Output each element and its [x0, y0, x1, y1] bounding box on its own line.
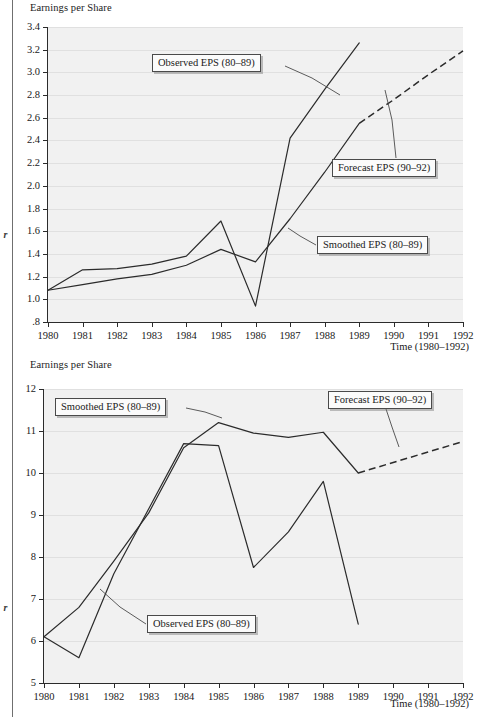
y-tick-mark: [39, 515, 44, 516]
x-tick-label: 1987: [271, 692, 305, 703]
y-tick-label: 1.8: [4, 204, 40, 215]
x-axis-line: [43, 683, 463, 684]
x-axis-line: [47, 322, 463, 323]
x-tick-mark: [152, 322, 153, 327]
x-tick-label: 1982: [100, 331, 134, 342]
y-tick-mark: [43, 209, 48, 210]
x-tick-mark: [428, 683, 429, 688]
x-tick-label: 1988: [306, 692, 340, 703]
x-tick-label: 1992: [446, 331, 478, 342]
y-tick-mark: [39, 557, 44, 558]
x-tick-label: 1991: [411, 331, 445, 342]
x-tick-mark: [184, 683, 185, 688]
x-tick-mark: [358, 683, 359, 688]
x-tick-label: 1988: [308, 331, 342, 342]
figure-top: Earnings per Share Observed EPS (80–89) …: [0, 0, 473, 360]
callout-observed-top[interactable]: Observed EPS (80–89): [152, 54, 261, 72]
callout-smoothed-bottom[interactable]: Smoothed EPS (80–89): [55, 398, 166, 416]
y-axis-line: [43, 389, 44, 683]
callout-forecast-bottom[interactable]: Forecast EPS (90–92): [328, 391, 432, 409]
y-tick-mark: [43, 140, 48, 141]
x-tick-label: 1984: [169, 331, 203, 342]
x-tick-mark: [428, 322, 429, 327]
x-tick-mark: [463, 683, 464, 688]
x-tick-label: 1983: [135, 331, 169, 342]
x-tick-mark: [83, 322, 84, 327]
callout-smoothed-top[interactable]: Smoothed EPS (80–89): [317, 236, 428, 254]
y-tick-label: 11: [0, 426, 36, 437]
x-tick-mark: [288, 683, 289, 688]
series-line-forecast: [359, 51, 463, 124]
y-tick-mark: [43, 72, 48, 73]
x-tick-label: 1984: [167, 692, 201, 703]
series-line-forecast: [358, 442, 463, 474]
y-tick-mark: [43, 118, 48, 119]
y-tick-mark: [43, 231, 48, 232]
y-tick-mark: [43, 163, 48, 164]
x-tick-mark: [79, 683, 80, 688]
y-tick-mark: [39, 641, 44, 642]
x-tick-label: 1983: [132, 692, 166, 703]
x-tick-mark: [48, 322, 49, 327]
y-tick-label: 12: [0, 384, 36, 395]
x-tick-mark: [186, 322, 187, 327]
x-tick-mark: [117, 322, 118, 327]
y-tick-label: 1.4: [4, 249, 40, 260]
y-tick-label: 3.4: [4, 22, 40, 33]
callout-observed-bottom[interactable]: Observed EPS (80–89): [147, 615, 256, 633]
x-tick-mark: [359, 322, 360, 327]
figure-bottom: Earnings per Share Smoothed EPS (80–89) …: [0, 357, 473, 717]
y-tick-label: 5: [0, 678, 36, 689]
x-tick-mark: [149, 683, 150, 688]
x-tick-label: 1991: [411, 692, 445, 703]
y-tick-label: 2.6: [4, 113, 40, 124]
y-tick-label: 2.4: [4, 135, 40, 146]
x-tick-mark: [463, 322, 464, 327]
callout-forecast-top[interactable]: Forecast EPS (90–92): [332, 159, 436, 177]
y-tick-mark: [43, 27, 48, 28]
y-tick-mark: [39, 431, 44, 432]
y-tick-mark: [39, 599, 44, 600]
y-tick-label: 6: [0, 636, 36, 647]
x-axis-title-top: Time (1980–1992): [390, 341, 469, 352]
y-tick-mark: [39, 473, 44, 474]
x-tick-label: 1989: [342, 331, 376, 342]
x-tick-mark: [256, 322, 257, 327]
x-tick-label: 1986: [237, 692, 271, 703]
y-tick-label: 1.0: [4, 294, 40, 305]
x-tick-label: 1981: [66, 331, 100, 342]
x-tick-label: 1982: [97, 692, 131, 703]
x-tick-label: 1992: [446, 692, 478, 703]
callout-leader: [386, 409, 399, 447]
y-tick-label: 7: [0, 594, 36, 605]
x-tick-mark: [44, 683, 45, 688]
x-tick-mark: [254, 683, 255, 688]
x-tick-mark: [393, 683, 394, 688]
y-tick-mark: [43, 299, 48, 300]
x-tick-label: 1980: [27, 692, 61, 703]
y-tick-label: 1.2: [4, 272, 40, 283]
callout-leader: [385, 90, 396, 158]
x-tick-label: 1985: [202, 692, 236, 703]
y-tick-label: 1.6: [4, 226, 40, 237]
y-tick-label: 8: [0, 552, 36, 563]
x-tick-label: 1989: [341, 692, 375, 703]
y-tick-mark: [39, 389, 44, 390]
x-tick-label: 1980: [31, 331, 65, 342]
callout-leader: [186, 408, 222, 418]
x-tick-mark: [290, 322, 291, 327]
x-tick-mark: [325, 322, 326, 327]
y-tick-mark: [43, 50, 48, 51]
callout-leader: [100, 589, 146, 624]
y-tick-label: 10: [0, 468, 36, 479]
x-tick-mark: [323, 683, 324, 688]
series-line-observed: [48, 43, 359, 306]
y-tick-mark: [43, 95, 48, 96]
x-tick-label: 1990: [377, 331, 411, 342]
y-tick-label: .8: [4, 317, 40, 328]
x-tick-label: 1986: [239, 331, 273, 342]
y-tick-label: 9: [0, 510, 36, 521]
y-tick-label: 3.2: [4, 45, 40, 56]
y-tick-label: 2.8: [4, 90, 40, 101]
x-tick-mark: [221, 322, 222, 327]
